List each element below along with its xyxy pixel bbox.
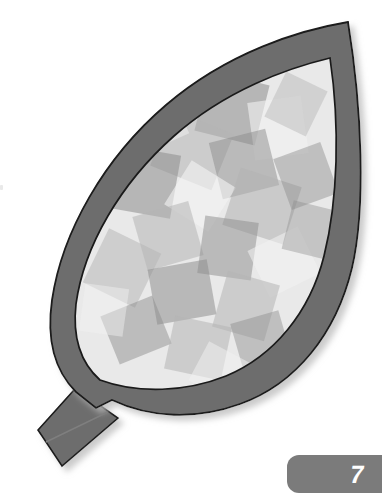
- page-number-badge: 7: [287, 455, 382, 493]
- page-number-badge-background: [287, 455, 382, 493]
- page-canvas: 7: [0, 0, 382, 498]
- mosaic-tile: [79, 283, 129, 337]
- page-edge-mark: [0, 185, 3, 190]
- leaf-mosaic-illustration: [0, 0, 382, 498]
